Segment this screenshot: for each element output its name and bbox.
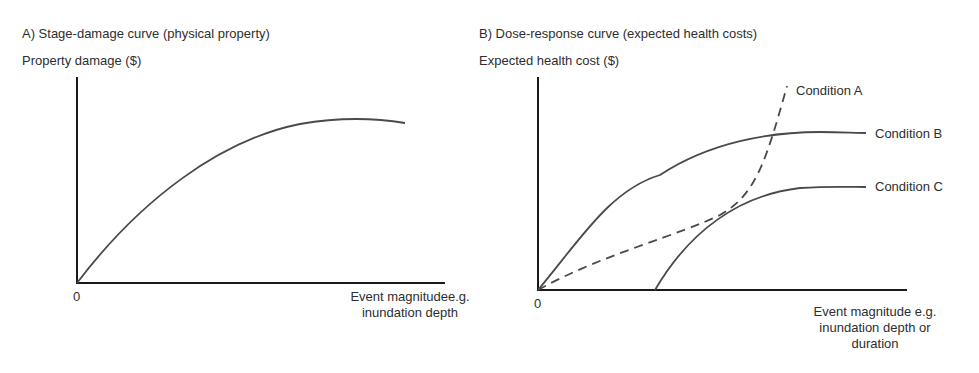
condition-b-curve (538, 132, 866, 290)
panel-b-axes (537, 77, 907, 290)
chart-canvas (0, 0, 979, 373)
panel-a-axes (76, 77, 445, 283)
condition-c-curve (655, 187, 866, 290)
panel-a-damage-curve (77, 119, 405, 283)
condition-a-curve (538, 86, 787, 290)
